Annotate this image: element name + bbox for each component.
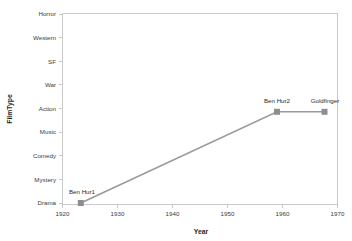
y-tick-label-western: Western	[33, 34, 56, 41]
x-axis-ticks	[63, 205, 338, 208]
x-tick-label-1920: 1920	[56, 210, 70, 217]
y-axis-title: FilmType	[6, 94, 14, 124]
point-label-ben-hur1: Ben Hur1	[69, 188, 96, 195]
y-tick-label-drama: Drama	[37, 199, 56, 206]
x-tick-label-1940: 1940	[166, 210, 180, 217]
film-type-year-chart: Horror Western SF War Action Music Comed…	[0, 0, 352, 241]
x-axis-title: Year	[194, 228, 209, 235]
x-tick-label-1970: 1970	[331, 210, 345, 217]
data-point-ben-hur2[interactable]	[274, 109, 280, 115]
x-tick-label-1960: 1960	[276, 210, 290, 217]
point-label-ben-hur2: Ben Hur2	[264, 97, 291, 104]
y-tick-label-sf: SF	[48, 58, 56, 65]
y-tick-label-music: Music	[40, 128, 56, 135]
data-series-line	[81, 112, 325, 203]
x-axis-tick-labels: 1920 1930 1940 1950 1960 1970	[56, 210, 345, 217]
chart-container: Horror Western SF War Action Music Comed…	[0, 0, 352, 241]
y-tick-label-mystery: Mystery	[34, 176, 57, 183]
y-tick-label-action: Action	[39, 105, 57, 112]
axes-spines	[63, 14, 338, 205]
point-label-goldfinger: Goldfinger	[311, 97, 340, 104]
y-axis-ticks	[59, 14, 62, 203]
y-axis-tick-labels: Horror Western SF War Action Music Comed…	[33, 10, 57, 206]
x-tick-label-1930: 1930	[111, 210, 125, 217]
data-point-ben-hur1[interactable]	[78, 200, 84, 206]
x-tick-label-1950: 1950	[221, 210, 235, 217]
y-tick-label-comedy: Comedy	[33, 152, 57, 159]
data-point-goldfinger[interactable]	[322, 109, 328, 115]
y-tick-label-horror: Horror	[38, 10, 56, 17]
data-point-markers	[78, 109, 328, 206]
y-tick-label-war: War	[45, 81, 56, 88]
